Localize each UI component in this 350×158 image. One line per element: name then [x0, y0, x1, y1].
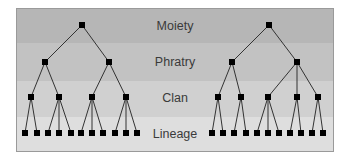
kinship-trees — [0, 0, 350, 158]
kinship-edge — [31, 62, 45, 97]
kinship-edge — [45, 25, 82, 62]
kinship-edge — [268, 62, 297, 97]
kinship-edge — [25, 97, 31, 133]
clan-node — [238, 94, 244, 100]
lineage-node — [56, 130, 62, 136]
phratry-node — [294, 59, 300, 65]
clan-node — [215, 94, 221, 100]
lineage-node — [134, 130, 140, 136]
lineage-node — [68, 130, 74, 136]
kinship-edge — [82, 25, 109, 62]
lineage-node — [100, 130, 106, 136]
kinship-edge — [92, 97, 103, 133]
lineage-node — [34, 130, 40, 136]
kinship-edge — [115, 97, 126, 133]
kinship-edge — [218, 62, 232, 97]
lineage-node — [220, 130, 226, 136]
phratry-node — [42, 59, 48, 65]
kinship-edge — [234, 97, 241, 133]
kinship-edge — [297, 62, 318, 97]
kinship-edge — [126, 97, 137, 133]
lineage-node — [276, 130, 282, 136]
kinship-edge — [269, 25, 297, 62]
kinship-edge — [109, 62, 126, 97]
kinship-edge — [48, 97, 59, 133]
kinship-edge — [232, 25, 269, 62]
lineage-node — [209, 130, 215, 136]
clan-node — [315, 94, 321, 100]
lineage-node — [309, 130, 315, 136]
lineage-node — [231, 130, 237, 136]
clan-node — [294, 94, 300, 100]
lineage-node — [45, 130, 51, 136]
clan-node — [89, 94, 95, 100]
phratry-node — [106, 59, 112, 65]
kinship-edge — [241, 97, 246, 133]
kinship-edge — [297, 97, 301, 133]
lineage-node — [123, 130, 129, 136]
kinship-edge — [45, 62, 59, 97]
lineage-node — [112, 130, 118, 136]
lineage-node — [265, 130, 271, 136]
lineage-node — [78, 130, 84, 136]
kinship-edge — [232, 62, 241, 97]
lineage-node — [320, 130, 326, 136]
kinship-edge — [218, 97, 223, 133]
lineage-node — [22, 130, 28, 136]
kinship-edge — [312, 97, 318, 133]
clan-node — [28, 94, 34, 100]
clan-node — [123, 94, 129, 100]
kinship-edge — [92, 62, 109, 97]
clan-node — [265, 94, 271, 100]
phratry-node — [229, 59, 235, 65]
kinship-edge — [268, 97, 279, 133]
kinship-edge — [31, 97, 37, 133]
moiety-node — [266, 22, 272, 28]
moiety-node — [79, 22, 85, 28]
lineage-node — [287, 130, 293, 136]
lineage-node — [89, 130, 95, 136]
kinship-edge — [59, 97, 71, 133]
lineage-node — [254, 130, 260, 136]
lineage-node — [243, 130, 249, 136]
clan-node — [56, 94, 62, 100]
lineage-node — [298, 130, 304, 136]
kinship-edge — [81, 97, 92, 133]
kinship-edge — [290, 97, 297, 133]
kinship-edge — [212, 97, 218, 133]
kinship-edge — [318, 97, 323, 133]
kinship-edge — [257, 97, 268, 133]
